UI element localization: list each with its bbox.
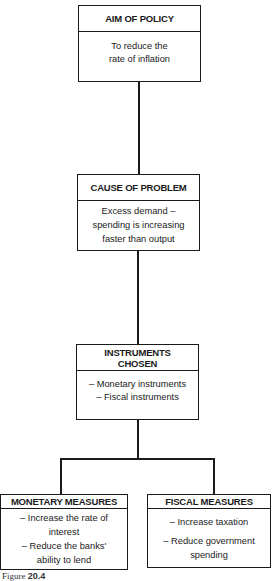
- cause-of-problem-title: CAUSE OF PROBLEM: [78, 175, 199, 201]
- fiscal-measures-title: FISCAL MEASURES: [148, 495, 270, 509]
- aim-of-policy-text: To reduce the rate of inflation: [79, 32, 200, 66]
- connector-branch-fiscal: [213, 458, 215, 494]
- figure-caption: Figure 20.4: [2, 571, 45, 581]
- connector-instruments-branch: [137, 419, 139, 459]
- instruments-chosen-text: – Monetary instruments – Fiscal instrume…: [77, 371, 198, 404]
- instruments-chosen-title: INSTRUMENTS CHOSEN: [77, 345, 198, 371]
- fiscal-measures-box: FISCAL MEASURES – Increase taxation – Re…: [147, 494, 271, 568]
- connector-branch-monetary: [60, 458, 62, 494]
- monetary-measures-box: MONETARY MEASURES – Increase the rate of…: [0, 494, 128, 570]
- aim-of-policy-box: AIM OF POLICY To reduce the rate of infl…: [78, 5, 201, 82]
- cause-of-problem-box: CAUSE OF PROBLEM Excess demand – spendin…: [77, 174, 200, 251]
- connector-branch-horizontal: [60, 458, 214, 460]
- cause-of-problem-text: Excess demand – spending is increasing f…: [78, 201, 199, 246]
- monetary-measures-text: – Increase the rate of interest – Reduce…: [1, 509, 127, 567]
- fiscal-measures-text: – Increase taxation – Reduce government …: [148, 509, 270, 562]
- monetary-measures-title: MONETARY MEASURES: [1, 495, 127, 509]
- connector-cause-instruments: [137, 250, 139, 344]
- instruments-chosen-box: INSTRUMENTS CHOSEN – Monetary instrument…: [76, 344, 199, 420]
- connector-aim-cause: [138, 81, 140, 174]
- aim-of-policy-title: AIM OF POLICY: [79, 6, 200, 32]
